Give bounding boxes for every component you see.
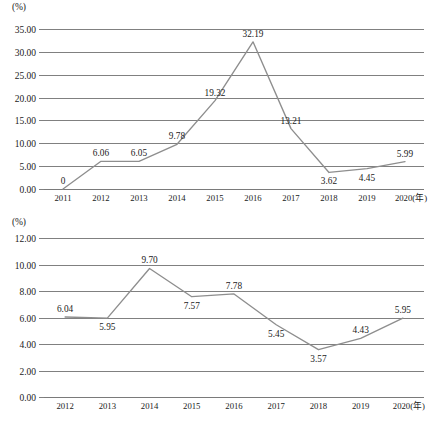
x-axis-tick-label: 2018	[320, 193, 338, 203]
x-axis-tick-label: 2012	[92, 193, 109, 203]
x-axis-tick-label: 2012	[56, 401, 73, 411]
data-point-label: 4.43	[353, 325, 370, 335]
x-axis-tick-label: 2016	[225, 401, 243, 411]
data-point-label: 6.05	[131, 148, 148, 158]
x-axis-tick-label: 2014	[168, 193, 186, 203]
data-point-label: 13.21	[281, 116, 302, 126]
data-point-label: 5.99	[397, 149, 414, 159]
y-axis-tick-label: 5.00	[19, 162, 36, 172]
x-axis-tick-label: 2016	[244, 193, 262, 203]
x-axis-tick-label: 2017	[268, 401, 286, 411]
x-axis-tick-label: 2019	[358, 193, 375, 203]
y-axis-tick-label: 35.00	[15, 25, 37, 35]
data-point-label: 6.06	[93, 148, 110, 158]
data-point-label: 3.57	[310, 354, 327, 364]
y-axis-tick-label: 4.00	[19, 340, 36, 350]
data-point-label: 5.95	[395, 305, 412, 315]
data-point-label: 9.78	[169, 131, 186, 141]
data-point-label: 7.78	[226, 281, 243, 291]
y-axis-tick-label: 8.00	[19, 287, 36, 297]
x-axis-tick-label: 2011	[54, 193, 71, 203]
data-point-label: 4.45	[359, 173, 376, 183]
y-axis-tick-label: 2.00	[19, 367, 36, 377]
y-axis-tick-label: 6.00	[19, 314, 36, 324]
x-axis-tick-label: 2020(年)	[393, 400, 425, 411]
y-axis-tick-label: 0.00	[19, 393, 36, 403]
data-point-label: 5.95	[99, 322, 116, 332]
y-axis-tick-label: 10.00	[15, 139, 37, 149]
y-axis-tick-label: 15.00	[15, 116, 37, 126]
data-point-label: 32.19	[243, 29, 264, 39]
x-axis-tick-label: 2014	[141, 401, 159, 411]
y-axis-tick-label: 30.00	[15, 48, 37, 58]
y-axis-tick-label: 25.00	[15, 71, 37, 81]
data-point-label: 6.04	[57, 304, 74, 314]
y-axis-tick-label: 0.00	[19, 185, 36, 195]
chart-top-container: (%) 0.005.0010.0015.0020.0025.0030.0035.…	[0, 0, 432, 215]
x-axis-tick-label: 2015	[206, 193, 223, 203]
data-point-label: 5.45	[268, 329, 285, 339]
x-axis-tick-label: 2018	[310, 401, 328, 411]
data-point-label: 3.62	[321, 176, 338, 186]
data-point-label: 19.32	[205, 88, 226, 98]
chart-bottom-svg: 0.002.004.006.008.0010.0012.002012201320…	[0, 215, 432, 429]
y-axis-tick-label: 12.00	[15, 234, 37, 244]
data-point-label: 9.70	[141, 255, 158, 265]
chart-bottom-container: (%) 0.002.004.006.008.0010.0012.00201220…	[0, 215, 432, 429]
x-axis-tick-label: 2017	[282, 193, 300, 203]
x-axis-tick-label: 2013	[99, 401, 116, 411]
y-axis-tick-label: 20.00	[15, 94, 37, 104]
x-axis-tick-label: 2013	[130, 193, 147, 203]
data-point-label: 0	[61, 176, 66, 186]
x-axis-tick-label: 2020(年)	[395, 192, 427, 203]
x-axis-tick-label: 2015	[183, 401, 200, 411]
y-axis-tick-label: 10.00	[15, 261, 37, 271]
x-axis-tick-label: 2019	[352, 401, 369, 411]
chart-top-svg: 0.005.0010.0015.0020.0025.0030.0035.0020…	[0, 0, 432, 215]
data-point-label: 7.57	[184, 301, 201, 311]
